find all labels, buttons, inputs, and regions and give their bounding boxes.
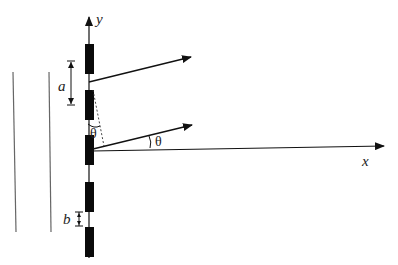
diagram-canvas: y x θ θ a b (0, 0, 398, 265)
dimension-a-arrow-down (68, 98, 74, 104)
dimension-b-arrow-down (77, 221, 81, 225)
dimension-a-label: a (58, 78, 66, 94)
dimension-b-label: b (63, 211, 71, 227)
x-axis-label: x (361, 153, 369, 169)
theta-label-incident: θ (90, 126, 97, 141)
grating-block (85, 44, 94, 74)
ray-upper (89, 57, 191, 82)
wall-line-right (49, 72, 51, 232)
x-axis (92, 146, 384, 151)
grating-block (85, 90, 94, 120)
angle-arc-output (149, 136, 151, 148)
y-axis-label: y (94, 11, 103, 27)
theta-label-output: θ (155, 134, 162, 149)
ray-lower (93, 125, 192, 149)
dimension-b-arrow-up (77, 213, 81, 217)
grating-block (85, 182, 94, 212)
wall-line-left (13, 72, 16, 232)
dimension-a-arrow-up (68, 62, 74, 68)
grating-block (85, 227, 94, 257)
